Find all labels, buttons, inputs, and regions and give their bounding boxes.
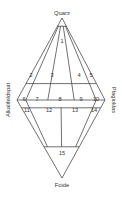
field-15: 15 bbox=[59, 150, 65, 156]
field-12: 12 bbox=[46, 107, 52, 113]
field-13: 13 bbox=[72, 107, 78, 113]
apex-label-quarz: Quarz bbox=[54, 10, 70, 16]
field-9: 9 bbox=[79, 96, 82, 102]
field-7: 7 bbox=[35, 96, 38, 102]
field-4: 4 bbox=[77, 72, 80, 78]
field-14: 14 bbox=[91, 107, 97, 113]
field-5: 5 bbox=[89, 72, 92, 78]
apex-label-plagioklas: Plagioklas bbox=[111, 87, 117, 114]
field-numbers: 1 2 3 4 5 6 7 8 9 10 11 12 13 14 15 bbox=[22, 38, 99, 156]
field-11: 11 bbox=[24, 107, 30, 113]
field-6: 6 bbox=[22, 96, 25, 102]
qapf-diagram: 1 2 3 4 5 6 7 8 9 10 11 12 13 14 15 Quar… bbox=[0, 0, 122, 202]
field-1: 1 bbox=[60, 38, 63, 44]
apex-label-foide: Foide bbox=[55, 182, 70, 188]
ratio-line-low-2 bbox=[72, 84, 74, 100]
field-2: 2 bbox=[29, 72, 32, 78]
edge-pf bbox=[62, 100, 105, 178]
ratio-line-lower-50 bbox=[61, 108, 62, 147]
field-3: 3 bbox=[50, 72, 53, 78]
ratio-line-upper-0 bbox=[26, 26, 59, 100]
apex-label-alkalifeldspat: Alkalifeldspat bbox=[5, 83, 11, 118]
ratio-line-low-1 bbox=[48, 84, 51, 100]
field-10: 10 bbox=[93, 96, 99, 102]
field-8: 8 bbox=[58, 96, 61, 102]
ratio-line-upper-3 bbox=[65, 26, 96, 100]
